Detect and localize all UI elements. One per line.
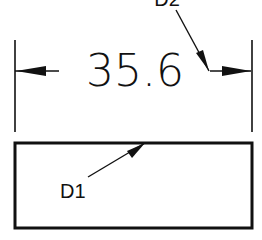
d1-leader-arrow xyxy=(88,143,145,177)
right-dimension-arrow xyxy=(210,66,251,76)
label-d1: D1 xyxy=(60,180,86,202)
dimension-value: 35.6 xyxy=(86,45,184,96)
left-dimension-arrow xyxy=(15,66,59,76)
technical-drawing: 35.6 D2 D1 xyxy=(0,0,262,240)
label-d2: D2 xyxy=(154,0,180,10)
